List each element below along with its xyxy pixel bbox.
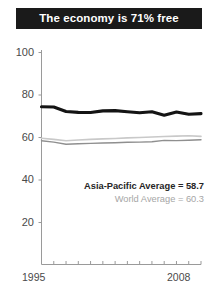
- plot-area: 100 80 60 40 20 1995 2008 Asia-Pacific A…: [0, 0, 216, 303]
- chart-legend: Asia-Pacific Average = 58.7 World Averag…: [64, 180, 204, 205]
- y-tick-label: 20: [10, 217, 34, 228]
- y-tick-label: 60: [10, 132, 34, 143]
- legend-world-average: World Average = 60.3: [64, 193, 204, 206]
- series-line-country-score: [42, 107, 202, 116]
- y-tick-40: 40: [10, 174, 34, 185]
- y-tick-80: 80: [10, 89, 34, 100]
- y-tick-label: 100: [10, 47, 34, 58]
- y-tick-100: 100: [10, 47, 34, 58]
- y-tick-20: 20: [10, 217, 34, 228]
- x-tick-label-end: 2008: [167, 272, 190, 283]
- x-tick-label-start: 1995: [22, 272, 45, 283]
- x-axis-ticks: [42, 261, 202, 265]
- y-tick-label: 80: [10, 89, 34, 100]
- y-tick-60: 60: [10, 132, 34, 143]
- legend-region-average: Asia-Pacific Average = 58.7: [64, 180, 204, 193]
- economic-freedom-chart: The economy is 71% free 100 80 60 40: [0, 0, 216, 303]
- y-tick-label: 40: [10, 174, 34, 185]
